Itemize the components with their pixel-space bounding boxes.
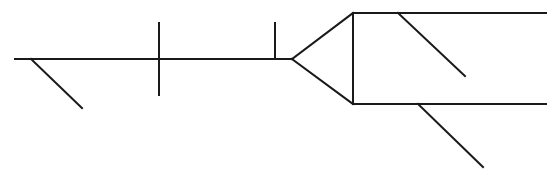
sentence-diagram (0, 0, 551, 178)
fork-upper (292, 13, 353, 59)
fork-lower (292, 59, 353, 104)
upper-branch-modifier-slant (398, 13, 465, 76)
subject-modifier-slant (31, 59, 82, 108)
lower-branch-modifier-slant (418, 104, 483, 167)
